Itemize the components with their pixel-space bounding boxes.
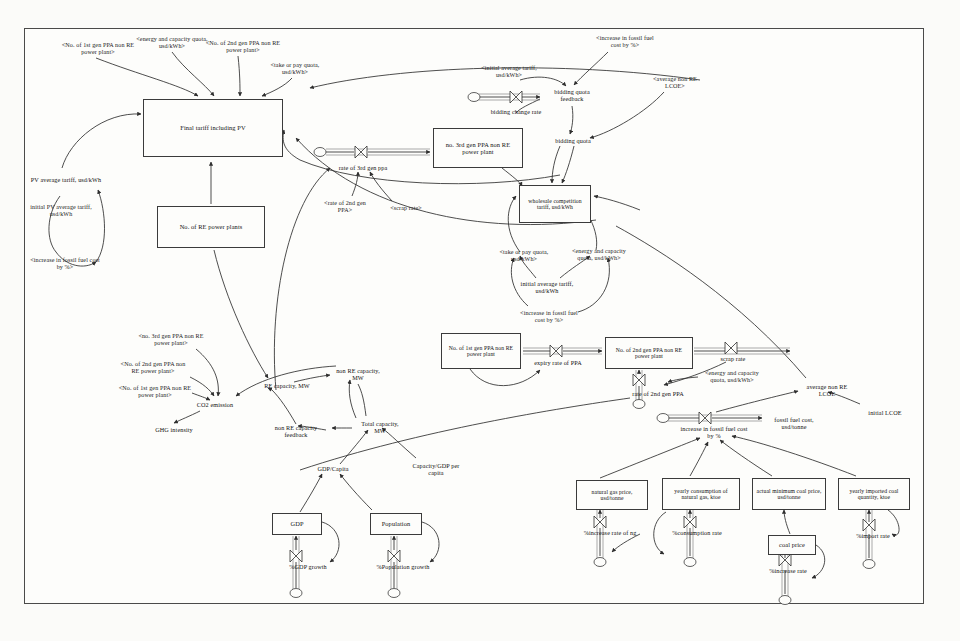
aux-ng-consumption-rate[interactable]: %consumption rate xyxy=(668,528,726,538)
aux-label: GHG intensity xyxy=(155,427,193,434)
stock-natural-gas-consumption[interactable]: yearly consumption of natural gas, ktoe xyxy=(662,478,740,510)
shadow-1st-gen-ppa-co2[interactable]: <No. of 1st gen PPA non RE power plant> xyxy=(118,383,192,401)
aux-expiry-rate-of-ppa[interactable]: expiry rate of PPA xyxy=(530,358,586,368)
aux-label: fossil fuel cost, usd/tonne xyxy=(766,417,822,431)
aux-co2-emission[interactable]: CO2 emission xyxy=(186,400,244,410)
aux-label: rate of 2nd gen PPA xyxy=(632,391,684,398)
shadow-label: <No. of 2nd gen PPA non RE power plant> xyxy=(205,40,281,54)
shadow-1st-gen-ppa-top[interactable]: <No. of 1st gen PPA non RE power plant> xyxy=(58,40,138,58)
shadow-2nd-gen-ppa-co2[interactable]: <No. of 2nd gen PPA non RE power plant> xyxy=(116,359,190,377)
stock-natural-gas-price[interactable]: natural gas price, usd/tonne xyxy=(576,480,648,510)
stock-imported-coal-quantity[interactable]: yearly imported coal quantity, ktoe xyxy=(838,478,910,510)
aux-label: rate of 3rd gen ppa xyxy=(339,165,388,172)
stock-label: wholesale competition tariff, usd/kWh xyxy=(523,198,587,211)
aux-increase-in-fossil-fuel-cost[interactable]: increase in fossil fuel cost by % xyxy=(680,424,748,442)
aux-ghg-intensity[interactable]: GHG intensity xyxy=(146,425,202,435)
shadow-label: initial PV average tariff, usd/kWh xyxy=(28,204,94,218)
stock-gdp[interactable]: GDP xyxy=(272,513,322,535)
aux-bidding-change-rate[interactable]: bidding change rate xyxy=(488,103,544,121)
shadow-label: <energy and capacity quota, usd/kWh> xyxy=(700,370,764,384)
stock-label: coal price xyxy=(779,541,805,548)
shadow-label: <average non RE LCOE> xyxy=(646,76,704,90)
aux-coal-import-rate[interactable]: %import rate xyxy=(848,531,898,541)
aux-pv-average-tariff[interactable]: PV average tariff, usd/kWh xyxy=(30,170,102,190)
stock-3rd-gen-ppa[interactable]: no. 3rd gen PPA non RE power plant xyxy=(433,128,523,168)
shadow-label: <increase in fossil fuel cost by %> xyxy=(592,35,658,49)
diagram-canvas: Final tariff including PV No. of RE powe… xyxy=(0,0,960,641)
shadow-fossil-increase-bidding[interactable]: <increase in fossil fuel cost by %> xyxy=(592,33,658,51)
shadow-label: <take or pay quota, usd/kWh> xyxy=(262,62,328,76)
aux-gdp-per-capita[interactable]: GDP/Capita xyxy=(307,464,359,474)
stock-label: no. 3rd gen PPA non RE power plant xyxy=(437,141,519,155)
stock-wholesale-tariff[interactable]: wholesale competition tariff, usd/kWh xyxy=(519,185,591,223)
stock-label: No. of 1st gen PPA non RE power plant xyxy=(445,345,517,358)
shadow-3rd-gen-ppa-co2[interactable]: <no. 3rd gen PPA non RE power plant> xyxy=(134,331,208,349)
aux-label: Total capacity, MW xyxy=(355,421,405,435)
shadow-label: <increase in fossil fuel cost by %> xyxy=(518,310,580,324)
shadow-fossil-increase-mid[interactable]: <increase in fossil fuel cost by %> xyxy=(518,308,580,326)
aux-average-non-re-lcoe[interactable]: average non RE LCOE xyxy=(800,382,854,400)
aux-label: %Population growth xyxy=(377,564,430,571)
aux-initial-lcoe[interactable]: initial LCOE xyxy=(862,408,908,418)
aux-label: increase in fossil fuel cost by % xyxy=(680,426,748,440)
aux-label: non RE capacity, MW xyxy=(333,368,383,382)
shadow-label: <energy and capacity quota, usd/kWh> xyxy=(136,36,208,50)
shadow-scrap-rate-mid[interactable]: <scrap rate> xyxy=(384,203,428,213)
aux-re-capacity[interactable]: RE capacity, MW xyxy=(258,381,316,391)
aux-label: %increase rate of ng xyxy=(584,530,637,537)
shadow-take-or-pay-quota-top[interactable]: <take or pay quota, usd/kWh> xyxy=(262,60,328,78)
shadow-fossil-increase-left[interactable]: <increase in fossil fuel cost by %> xyxy=(30,255,100,273)
shadow-energy-capacity-quota-right[interactable]: <energy and capacity quota, usd/kWh> xyxy=(700,368,764,386)
aux-population-growth-rate[interactable]: %Population growth xyxy=(372,562,434,572)
shadow-2nd-gen-ppa-top[interactable]: <No. of 2nd gen PPA non RE power plant> xyxy=(205,38,281,56)
aux-non-re-capacity[interactable]: non RE capacity, MW xyxy=(333,366,383,384)
shadow-label: <No. of 1st gen PPA non RE power plant> xyxy=(118,385,192,399)
shadow-rate-2nd-gen-mid[interactable]: <rate of 2nd gen PPA> xyxy=(319,198,371,216)
stock-label: natural gas price, usd/tonne xyxy=(580,489,644,502)
stock-label: Population xyxy=(382,520,411,527)
stock-minimum-coal-price[interactable]: actual minimum coal price, usd/tonne xyxy=(752,478,826,510)
aux-total-capacity[interactable]: Total capacity, MW xyxy=(355,419,405,437)
aux-coal-increase-rate[interactable]: %increase rate xyxy=(762,566,814,576)
aux-label: bidding quota feedback xyxy=(543,89,601,103)
shadow-initial-pv-average-tariff[interactable]: initial PV average tariff, usd/kWh xyxy=(28,202,94,220)
stock-population[interactable]: Population xyxy=(370,513,422,535)
stock-label: GDP xyxy=(290,520,303,527)
aux-label: scrap rate xyxy=(721,356,746,363)
aux-bidding-quota[interactable]: bidding quota xyxy=(547,136,599,146)
aux-label: PV average tariff, usd/kWh xyxy=(31,177,101,184)
aux-initial-average-tariff[interactable]: initial average tariff, usd/kWh xyxy=(516,279,578,297)
aux-label: bidding quota xyxy=(555,138,591,145)
aux-label: %GDP growth xyxy=(289,564,326,571)
stock-label: yearly imported coal quantity, ktoe xyxy=(842,488,906,501)
shadow-initial-average-tariff-bidding[interactable]: <initial average tariff, usd/kWh> xyxy=(478,63,540,81)
aux-gdp-growth-rate[interactable]: %GDP growth xyxy=(282,562,334,572)
aux-capacity-per-gdp-capita[interactable]: Capacity/GDP per capita xyxy=(408,461,464,479)
stock-2nd-gen-ppa[interactable]: No. of 2nd gen PPA non RE power plant xyxy=(605,337,693,369)
aux-non-re-capacity-feedback[interactable]: non RE capacity feedback xyxy=(268,423,324,441)
shadow-energy-capacity-quota-top[interactable]: <energy and capacity quota, usd/kWh> xyxy=(136,34,208,52)
aux-label: initial average tariff, usd/kWh xyxy=(516,281,578,295)
aux-rate-of-3rd-gen-ppa[interactable]: rate of 3rd gen ppa xyxy=(338,159,388,177)
aux-label: Capacity/GDP per capita xyxy=(408,463,464,477)
stock-1st-gen-ppa[interactable]: No. of 1st gen PPA non RE power plant xyxy=(441,333,521,369)
aux-scrap-rate[interactable]: scrap rate xyxy=(712,354,754,364)
aux-label: %increase rate xyxy=(769,568,807,575)
aux-fossil-fuel-cost[interactable]: fossil fuel cost, usd/tonne xyxy=(766,415,822,433)
shadow-take-or-pay-quota-mid[interactable]: <take or pay quota, usd/kWh> xyxy=(497,244,551,268)
stock-coal-price[interactable]: coal price xyxy=(768,535,816,555)
aux-bidding-quota-feedback[interactable]: bidding quota feedback xyxy=(543,87,601,105)
shadow-label: <scrap rate> xyxy=(390,205,422,212)
shadow-energy-capacity-quota-mid[interactable]: <energy and capacity quota, usd/kWh> xyxy=(568,243,630,267)
aux-label: CO2 emission xyxy=(197,402,233,409)
shadow-average-non-re-lcoe-bidding[interactable]: <average non RE LCOE> xyxy=(646,74,704,92)
aux-label: average non RE LCOE xyxy=(800,384,854,398)
aux-ng-increase-rate[interactable]: %increase rate of ng xyxy=(580,528,640,538)
aux-label: RE capacity, MW xyxy=(264,383,310,390)
stock-label: actual minimum coal price, usd/tonne xyxy=(756,488,822,501)
aux-rate-of-2nd-gen-ppa[interactable]: rate of 2nd gen PPA xyxy=(632,385,684,403)
shadow-label: <No. of 1st gen PPA non RE power plant> xyxy=(58,42,138,56)
shadow-label: <no. 3rd gen PPA non RE power plant> xyxy=(134,333,208,347)
stock-re-power-plants[interactable]: No. of RE power plants xyxy=(157,206,265,248)
stock-final-tariff[interactable]: Final tariff including PV xyxy=(143,99,283,157)
